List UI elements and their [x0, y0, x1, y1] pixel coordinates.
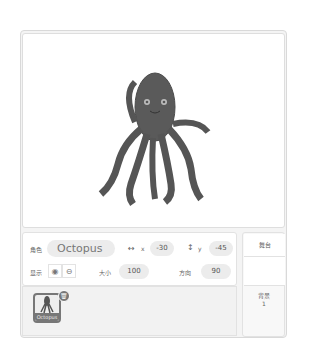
show-eye-icon[interactable]: ◉ — [48, 264, 62, 278]
hide-eye-icon[interactable]: ⊖ — [62, 264, 76, 278]
show-label: 显示 — [30, 268, 42, 277]
octopus-thumb-icon — [35, 295, 59, 315]
backdrops-label: 背景 — [258, 291, 270, 300]
sprite-name-input[interactable]: Octopus — [47, 240, 115, 257]
y-input[interactable]: -45 — [209, 241, 233, 256]
y-arrow-icon: ↕ — [187, 243, 194, 252]
x-input[interactable]: -30 — [150, 241, 174, 256]
sprite-thumb-label: Octopus — [35, 313, 59, 321]
delete-sprite-icon[interactable]: 🗑 — [58, 290, 70, 302]
sprite-info-panel: 角色 Octopus ↔ x -30 ↕ y -45 显示 ◉ ⊖ 大小 100… — [22, 232, 237, 286]
x-arrow-icon: ↔ — [128, 244, 135, 253]
stage-title: 舞台 — [244, 234, 285, 257]
size-input[interactable]: 100 — [119, 264, 149, 279]
direction-input[interactable]: 90 — [201, 264, 231, 279]
backdrops-count: 1 — [262, 300, 266, 307]
size-label: 大小 — [99, 268, 111, 277]
octopus-sprite[interactable] — [23, 34, 286, 229]
sprite-label: 角色 — [30, 245, 42, 254]
sprite-thumbnail[interactable]: Octopus — [33, 293, 61, 323]
stage-canvas[interactable] — [22, 33, 285, 228]
sprite-list: Octopus 🗑 — [22, 286, 237, 336]
y-label: y — [198, 245, 202, 252]
direction-label: 方向 — [179, 268, 191, 277]
stage-panel[interactable]: 舞台 背景 1 — [242, 232, 285, 337]
x-label: x — [141, 245, 145, 252]
stage-thumbnail[interactable] — [244, 257, 285, 286]
